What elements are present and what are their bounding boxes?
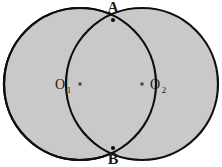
center-marker-o2 (140, 82, 144, 86)
geometry-figure: A B O 1 O 2 (0, 0, 222, 167)
label-center-o2: O (150, 77, 160, 92)
label-point-b: B (108, 150, 119, 167)
label-center-o2-subscript: 2 (162, 85, 167, 95)
intersection-marker-a (111, 18, 115, 22)
label-center-o1: O (55, 77, 65, 92)
label-point-a: A (107, 0, 119, 16)
label-center-o1-subscript: 1 (67, 85, 72, 95)
two-circles-diagram: A B O 1 O 2 (0, 0, 222, 167)
center-marker-o1 (78, 82, 82, 86)
